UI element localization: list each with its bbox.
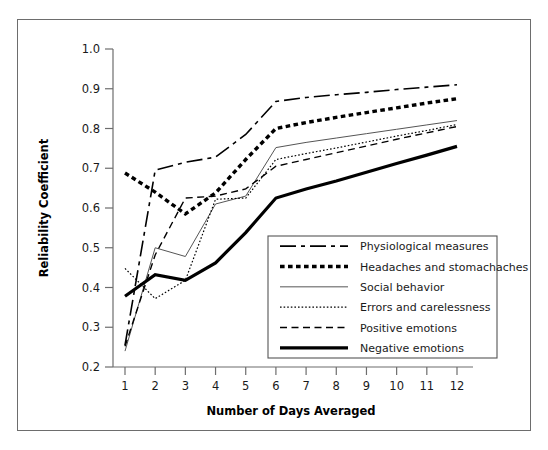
legend-label-2: Social behavior [360,281,445,294]
x-tick-label: 6 [272,379,279,393]
x-tick-label: 12 [450,379,465,393]
y-tick-label: 0.3 [82,320,100,334]
x-tick-label: 5 [242,379,249,393]
legend-label-4: Positive emotions [360,322,457,335]
x-tick-label: 10 [389,379,404,393]
x-tick-label: 2 [152,379,159,393]
figure-panel: 0.20.30.40.50.60.70.80.91.01234567891011… [17,19,531,431]
legend-label-0: Physiological measures [360,240,489,253]
reliability-coefficient-line-chart: 0.20.30.40.50.60.70.80.91.01234567891011… [18,20,529,429]
x-tick-label: 4 [212,379,219,393]
chart-legend: Physiological measuresHeadaches and stom… [268,236,528,358]
y-tick-label: 0.8 [82,122,100,136]
y-tick-label: 0.4 [82,281,100,295]
x-tick-label: 3 [182,379,189,393]
legend-box [268,236,497,358]
series-line-1 [125,99,457,214]
x-tick-label: 7 [302,379,309,393]
x-tick-label: 11 [419,379,434,393]
y-tick-label: 0.6 [82,201,100,215]
x-tick-label: 1 [121,379,128,393]
y-tick-label: 0.5 [82,241,100,255]
y-axis-title: Reliability Coefficient [37,138,51,277]
x-tick-label: 8 [333,379,340,393]
legend-label-1: Headaches and stomachaches [360,261,528,274]
legend-label-3: Errors and carelessness [360,301,491,314]
y-tick-label: 0.7 [82,161,100,175]
y-tick-label: 1.0 [82,42,100,56]
legend-label-5: Negative emotions [360,342,464,355]
y-tick-label: 0.2 [82,360,100,374]
x-tick-label: 9 [363,379,370,393]
x-axis-title: Number of Days Averaged [206,404,375,418]
y-tick-label: 0.9 [82,82,100,96]
